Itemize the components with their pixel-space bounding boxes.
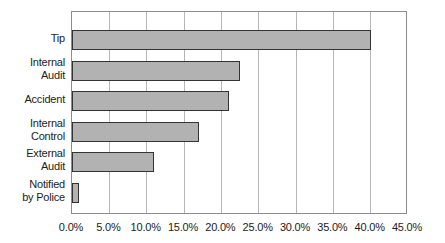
category-label: Tip — [0, 32, 65, 45]
plot-area — [71, 11, 407, 214]
bar — [72, 122, 199, 142]
bar — [72, 30, 371, 50]
x-tick-label: 45.0% — [377, 221, 437, 234]
bar — [72, 152, 154, 172]
category-label: Accident — [0, 93, 65, 106]
bar — [72, 61, 240, 81]
bar-chart: TipInternal AuditAccidentInternal Contro… — [0, 0, 445, 243]
bar — [72, 183, 79, 203]
category-label: Internal Audit — [0, 56, 65, 82]
bar — [72, 91, 229, 111]
category-label: Notified by Police — [0, 178, 65, 204]
category-label: Internal Control — [0, 117, 65, 143]
category-label: External Audit — [0, 147, 65, 173]
